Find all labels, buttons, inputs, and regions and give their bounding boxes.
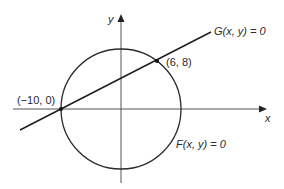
y-axis-label: y <box>108 14 114 25</box>
circle-f-label: F(x, y) = 0 <box>176 139 226 150</box>
point-6-8 <box>155 59 159 63</box>
point-neg10-0 <box>59 107 63 111</box>
point-neg10-0-label: (−10, 0) <box>17 95 55 106</box>
point-6-8-label: (6, 8) <box>166 57 192 68</box>
line-g-label: G(x, y) = 0 <box>214 26 266 37</box>
y-axis-arrow-icon <box>118 14 125 22</box>
line-g <box>20 32 211 130</box>
x-axis-label-right: x <box>265 113 271 124</box>
